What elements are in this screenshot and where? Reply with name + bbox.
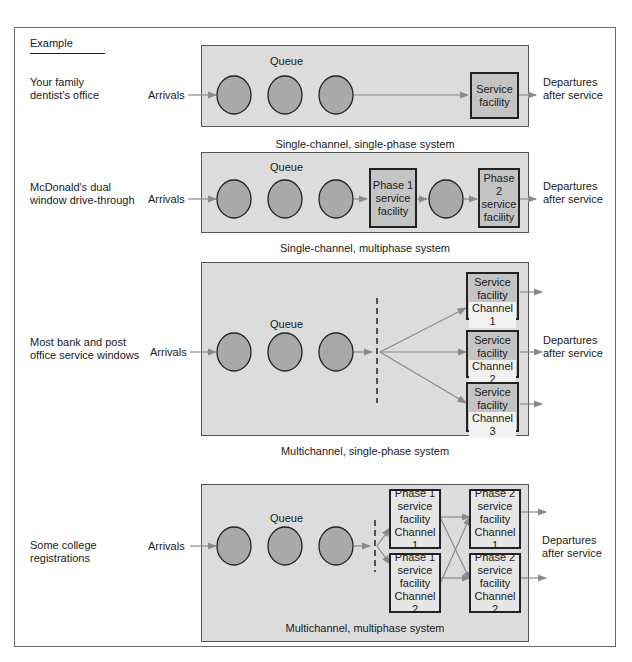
departures-label: Departures after service [543,180,603,206]
caption-multichannel-single-phase: Multichannel, single-phase system [165,445,565,457]
service-facility-channel-2: Service facility Channel 2 [466,330,519,378]
example-bank: Most bank and post office service window… [30,336,139,362]
service-facility-box: Service facility [470,72,519,119]
arrivals-label: Arrivals [148,540,185,553]
service-facility-label: Service facility [472,83,517,109]
queue-label: Queue [270,161,303,174]
facility-label: Phase 2 service facility [471,551,519,590]
phase2-channel-1-box: Phase 2 service facility Channel 1 [469,489,521,549]
caption-multichannel-multiphase: Multichannel, multiphase system [165,622,565,634]
caption-single-channel-multiphase: Single-channel, multiphase system [165,242,565,254]
phase1-channel-2-box: Phase 1 service facility Channel 2 [389,553,441,613]
example-dentist: Your family dentist's office [30,76,99,102]
departures-label: Departures after service [543,334,603,360]
caption-single-channel-single-phase: Single-channel, single-phase system [165,138,565,150]
phase2-label: Phase 2 service facility [480,172,518,224]
phase1-label: Phase 1 service facility [371,179,415,218]
departures-label: Departures after service [542,534,602,560]
channel-label: Channel 3 [469,412,516,438]
channel-label: Channel 2 [391,590,439,616]
phase1-service-facility-box: Phase 1 service facility [369,168,417,228]
service-facility-channel-3: Service facility Channel 3 [466,382,519,432]
facility-label: Phase 1 service facility [391,551,439,590]
facility-label: Service facility [468,334,517,360]
example-college: Some college registrations [30,539,97,565]
departures-label: Departures after service [543,76,603,102]
phase2-channel-2-box: Phase 2 service facility Channel 2 [469,553,521,613]
facility-label: Phase 1 service facility [391,487,439,526]
arrivals-label: Arrivals [148,193,185,206]
facility-label: Service facility [468,386,517,412]
channel-label: Channel 1 [469,302,516,328]
example-mcdonalds: McDonald's dual window drive-through [30,181,135,207]
channel-label: Channel 2 [471,590,519,616]
queue-label: Queue [270,512,303,525]
phase1-channel-1-box: Phase 1 service facility Channel 1 [389,489,441,549]
channel-label: Channel 1 [391,526,439,552]
arrivals-label: Arrivals [148,89,185,102]
queue-label: Queue [270,318,303,331]
channel-label: Channel 1 [471,526,519,552]
facility-label: Phase 2 service facility [471,487,519,526]
phase2-service-facility-box: Phase 2 service facility [478,168,520,228]
facility-label: Service facility [468,276,517,302]
queue-label: Queue [270,55,303,68]
arrivals-label: Arrivals [150,346,187,359]
service-facility-channel-1: Service facility Channel 1 [466,272,519,320]
